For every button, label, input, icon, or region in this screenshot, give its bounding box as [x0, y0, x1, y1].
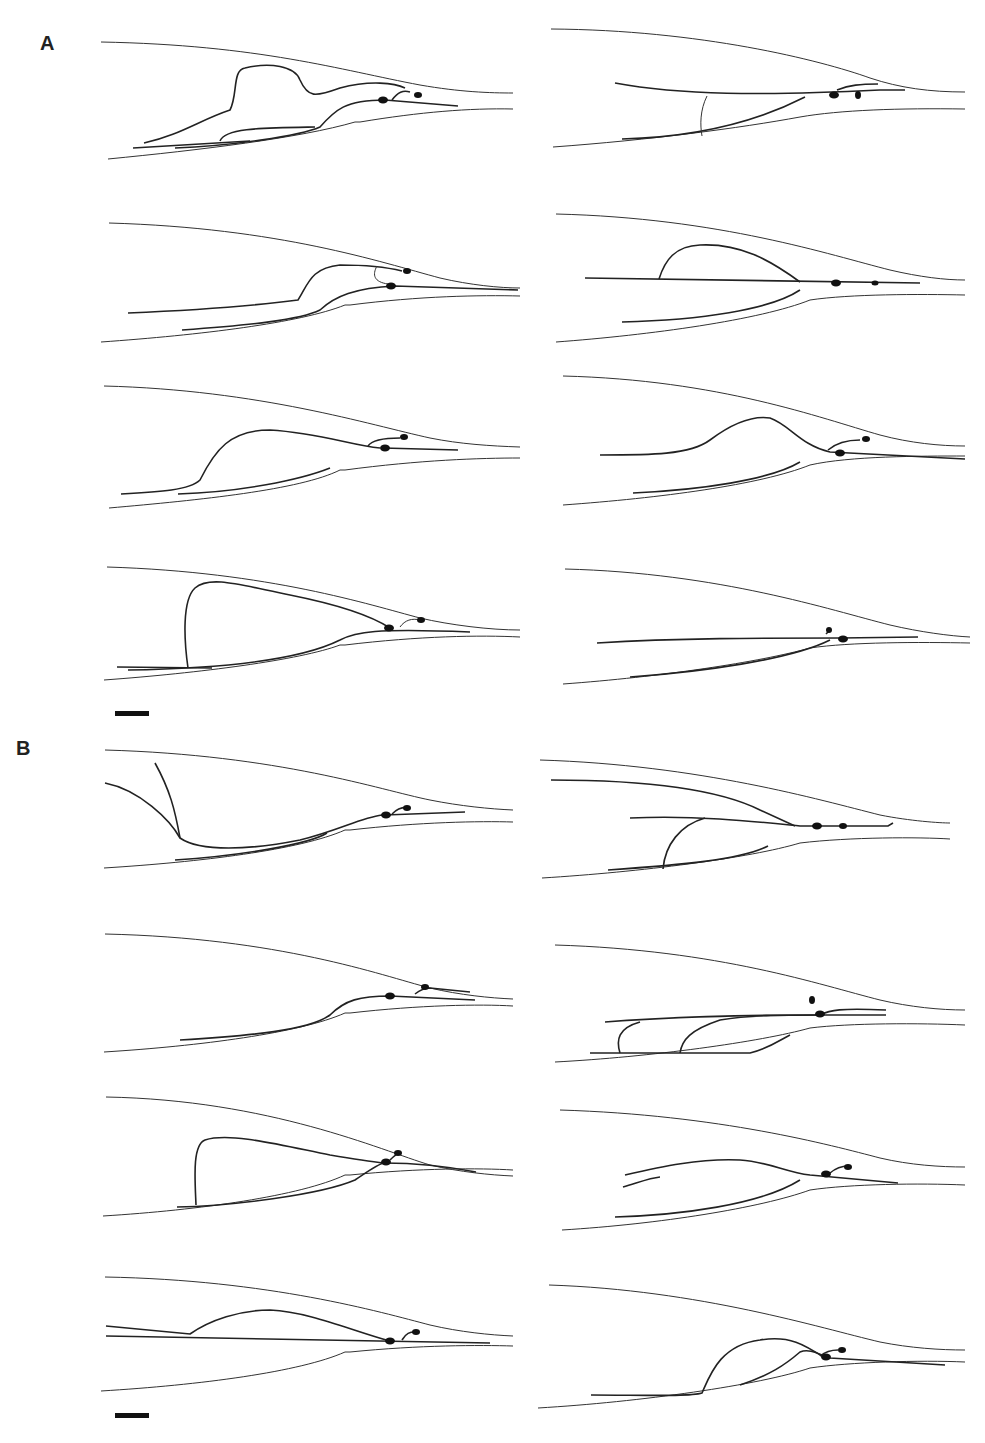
panel-a2 [551, 29, 965, 147]
scale-bar-b [115, 1413, 149, 1418]
embryo-tracings [0, 0, 985, 1443]
scale-bar-a [115, 711, 149, 716]
panel-b3 [104, 934, 513, 1052]
panel-b7 [101, 1277, 513, 1391]
panel-a5 [104, 386, 520, 508]
panel-a6 [563, 376, 965, 505]
panel-a4 [556, 214, 965, 342]
panel-b1 [104, 750, 513, 868]
panel-a1 [101, 42, 513, 159]
panel-a8 [563, 569, 970, 684]
panel-b4 [555, 945, 965, 1062]
panel-b2 [540, 760, 950, 878]
panel-a3 [101, 223, 520, 342]
panel-b8 [538, 1285, 965, 1408]
panel-a7 [104, 567, 520, 680]
panel-b5 [103, 1097, 513, 1216]
panel-b6 [560, 1110, 965, 1230]
